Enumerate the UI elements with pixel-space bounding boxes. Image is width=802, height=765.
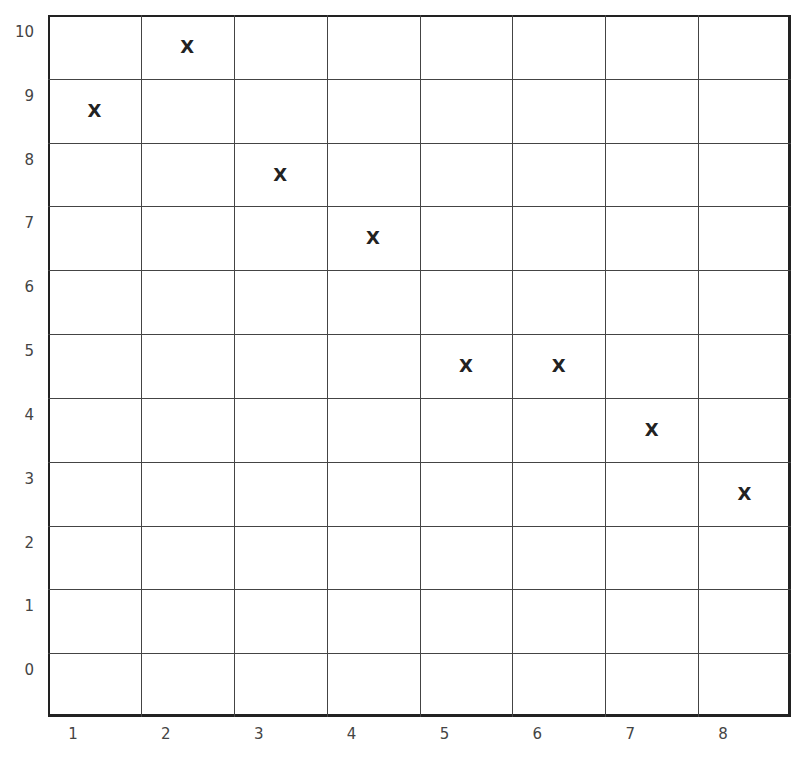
y-tick-label: 4 (4, 406, 34, 424)
grid-vline (605, 15, 606, 717)
grid-hline (48, 462, 791, 463)
grid-hline (48, 206, 791, 207)
data-point-x-marker: X (363, 229, 383, 247)
x-tick-label: 7 (620, 725, 640, 743)
data-point-x-marker: X (642, 421, 662, 439)
x-tick-label: 8 (713, 725, 733, 743)
y-tick-label: 5 (4, 342, 34, 360)
grid-vline (327, 15, 328, 717)
x-tick-label: 6 (527, 725, 547, 743)
x-tick-label: 1 (63, 725, 83, 743)
x-tick-label: 4 (342, 725, 362, 743)
y-tick-label: 8 (4, 151, 34, 169)
data-point-x-marker: X (456, 357, 476, 375)
grid-vline (512, 15, 513, 717)
data-point-x-marker: X (84, 102, 104, 120)
grid-vline (698, 15, 699, 717)
grid-hline (48, 526, 791, 527)
x-tick-label: 3 (249, 725, 269, 743)
grid-vline (234, 15, 235, 717)
x-tick-label: 5 (435, 725, 455, 743)
y-tick-label: 3 (4, 470, 34, 488)
y-tick-label: 6 (4, 278, 34, 296)
grid-vline (141, 15, 142, 717)
data-point-x-marker: X (735, 485, 755, 503)
y-tick-label: 9 (4, 87, 34, 105)
y-tick-label: 10 (4, 23, 34, 41)
y-tick-label: 7 (4, 214, 34, 232)
y-tick-label: 1 (4, 597, 34, 615)
grid-hline (48, 398, 791, 399)
data-point-x-marker: X (177, 38, 197, 56)
y-tick-label: 2 (4, 534, 34, 552)
x-tick-label: 2 (156, 725, 176, 743)
grid-vline (420, 15, 421, 717)
grid-hline (48, 589, 791, 590)
data-point-x-marker: X (270, 166, 290, 184)
data-point-x-marker: X (549, 357, 569, 375)
grid-hline (48, 334, 791, 335)
grid-hline (48, 270, 791, 271)
grid-hline (48, 79, 791, 80)
y-tick-label: 0 (4, 661, 34, 679)
grid-hline (48, 143, 791, 144)
grid-hline (48, 653, 791, 654)
